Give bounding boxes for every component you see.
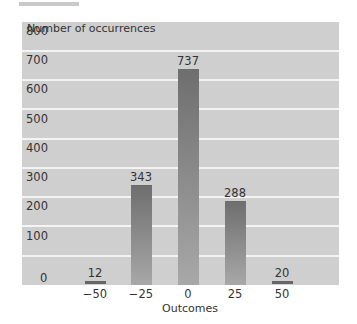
y-tick-label: 400 xyxy=(26,141,48,155)
y-tick-label: 0 xyxy=(40,271,47,285)
bar-value-label: 737 xyxy=(168,54,208,68)
bar xyxy=(272,281,293,284)
x-axis-label: Outcomes xyxy=(150,302,230,315)
bar xyxy=(225,201,246,285)
y-tick-label: 200 xyxy=(26,199,48,213)
y-tick-label: 100 xyxy=(26,229,48,243)
y-tick-label: 600 xyxy=(26,82,48,96)
x-tick-label: −50 xyxy=(75,287,115,301)
x-tick-label: −25 xyxy=(121,287,161,301)
gridline xyxy=(22,50,339,52)
y-axis-label: Number of occurrences xyxy=(27,22,155,35)
bar-value-label: 20 xyxy=(262,266,302,280)
bar-value-label: 343 xyxy=(121,170,161,184)
y-tick-label: 300 xyxy=(26,170,48,184)
x-tick-label: 50 xyxy=(262,287,302,301)
x-tick-label: 25 xyxy=(215,287,255,301)
bar xyxy=(85,281,106,284)
x-tick-label: 0 xyxy=(168,287,208,301)
bar xyxy=(131,185,152,285)
y-tick-label: 500 xyxy=(26,112,48,126)
bar-value-label: 12 xyxy=(75,266,115,280)
bar xyxy=(178,69,199,285)
bar-value-label: 288 xyxy=(215,186,255,200)
y-tick-label: 700 xyxy=(26,53,48,67)
decorative-top-bar xyxy=(19,2,79,6)
